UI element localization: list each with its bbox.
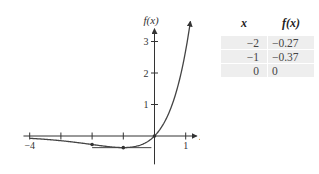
cell-fx: −0.27 xyxy=(268,36,314,49)
y-axis-title: f(x) xyxy=(144,14,160,27)
table-header-row: x f(x) xyxy=(221,16,314,35)
y-tick-label: 2 xyxy=(144,68,149,79)
y-tick-label: 3 xyxy=(144,36,149,47)
function-curve xyxy=(30,22,191,148)
cell-x: −1 xyxy=(221,50,267,63)
header-fx: f(x) xyxy=(268,16,314,35)
function-plot: x f(x) −41123 xyxy=(0,0,200,174)
x-tick-label: 1 xyxy=(183,140,188,151)
cell-x: −2 xyxy=(221,36,267,49)
table-row: −1 −0.37 xyxy=(221,50,314,63)
data-point xyxy=(153,134,157,138)
table-row: 0 0 xyxy=(221,64,314,77)
values-table: x f(x) −2 −0.27 −1 −0.37 0 0 xyxy=(220,15,315,78)
x-axis-title: x xyxy=(199,130,200,142)
cell-fx: 0 xyxy=(268,64,314,77)
x-tick-label: −4 xyxy=(24,140,35,151)
cell-fx: −0.37 xyxy=(268,50,314,63)
y-tick-label: 1 xyxy=(144,99,149,110)
table-row: −2 −0.27 xyxy=(221,36,314,49)
data-point xyxy=(122,146,126,150)
header-x: x xyxy=(221,16,267,35)
data-point xyxy=(90,143,94,147)
cell-x: 0 xyxy=(221,64,267,77)
